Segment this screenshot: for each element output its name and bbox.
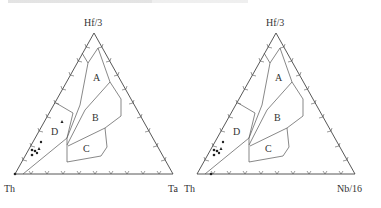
region-label-c: C [265, 143, 272, 154]
region-label-b: B [274, 112, 281, 123]
apex-label-bottom-left: Th [184, 183, 195, 194]
region-label-a: A [275, 72, 283, 83]
region-label-d: D [51, 126, 58, 137]
apex-label-bottom-right: Nb/16 [337, 183, 362, 194]
ternary-figure: Hf/3 Th Ta A B C D Hf/3 Th Nb/16 A B C D [0, 0, 381, 208]
region-label-c: C [83, 143, 90, 154]
ternary-diagram-th-hf-ta: Hf/3 Th Ta A B C D [4, 17, 178, 194]
region-label-d: D [233, 126, 240, 137]
ternary-diagram-th-hf-nb: Hf/3 Th Nb/16 A B C D [184, 17, 362, 194]
region-label-b: B [92, 112, 99, 123]
apex-label-top: Hf/3 [266, 17, 284, 28]
apex-label-bottom-right: Ta [168, 183, 178, 194]
apex-label-bottom-left: Th [4, 183, 15, 194]
apex-label-top: Hf/3 [84, 17, 102, 28]
region-label-a: A [93, 72, 101, 83]
data-points [210, 141, 225, 176]
